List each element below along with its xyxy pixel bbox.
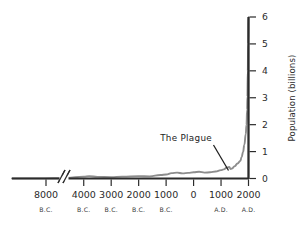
y-axis-tick-label: 2 xyxy=(262,119,268,130)
chart-svg: 80004000300020001000010002000 B.C.B.C.B.… xyxy=(0,0,302,230)
y-axis-tick-label: 1 xyxy=(262,146,268,157)
x-axis-era-label: B.C. xyxy=(159,206,172,213)
x-axis-era-label: A.D. xyxy=(242,206,256,213)
x-axis-era-label: B.C. xyxy=(132,206,145,213)
x-axis-tick-label: 1000 xyxy=(154,189,178,200)
x-axis-tick-label: 2000 xyxy=(236,189,260,200)
y-axis-title: Population (billions) xyxy=(287,55,297,142)
x-axis-era-label: A.D. xyxy=(214,206,228,213)
y-axis-tick-label: 3 xyxy=(262,92,268,103)
x-axis-tick-label: 4000 xyxy=(72,189,96,200)
y-axis-tick-label: 5 xyxy=(262,38,268,49)
plague-annotation-label: The Plague xyxy=(159,133,212,143)
population-chart: 80004000300020001000010002000 B.C.B.C.B.… xyxy=(0,0,302,230)
x-axis-tick-label: 3000 xyxy=(99,189,123,200)
x-axis-era-label: B.C. xyxy=(77,206,90,213)
y-axis-tick-label: 4 xyxy=(262,65,268,76)
x-axis-tick-label: 8000 xyxy=(34,189,58,200)
x-axis-tick-label: 2000 xyxy=(127,189,151,200)
y-axis-tick-label: 0 xyxy=(262,173,268,184)
y-axis-tick-label: 6 xyxy=(262,11,268,22)
x-axis-era-label: B.C. xyxy=(105,206,118,213)
x-axis-era-label: B.C. xyxy=(39,206,52,213)
x-axis-tick-label: 1000 xyxy=(209,189,233,200)
x-axis-tick-label: 0 xyxy=(191,189,197,200)
